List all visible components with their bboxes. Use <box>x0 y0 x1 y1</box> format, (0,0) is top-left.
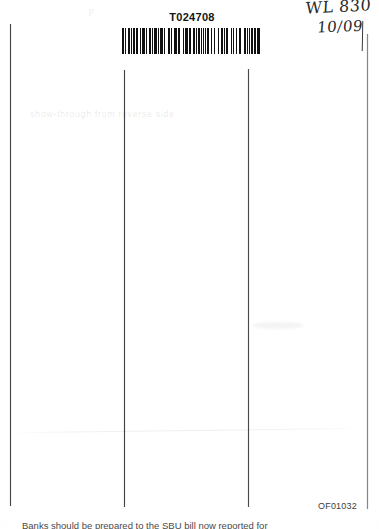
barcode-bar <box>185 28 188 55</box>
barcode-bar <box>224 28 225 55</box>
vertical-rule-left-margin <box>10 24 11 506</box>
barcode-bar <box>244 28 246 55</box>
barcode-bar <box>251 28 253 55</box>
vertical-rule-column-1 <box>124 70 125 507</box>
barcode-bar <box>158 28 159 55</box>
barcode-bar <box>201 28 202 55</box>
fold-crease-line <box>8 428 368 433</box>
barcode-bar <box>198 28 200 55</box>
barcode-bar <box>236 28 237 55</box>
paper-texture <box>0 0 379 529</box>
barcode-label: T024708 <box>121 11 263 55</box>
barcode-bar <box>125 28 126 55</box>
scanned-document-page: P T024708 WL 830 10/09 show-through from… <box>0 0 379 529</box>
corner-mark: P <box>88 6 97 17</box>
barcode-bar <box>152 28 153 55</box>
barcode-bar <box>142 28 145 55</box>
barcode-bar <box>174 28 177 55</box>
barcode-bar <box>122 28 124 55</box>
clipped-body-text: Banks should be prepared to the SBU bill… <box>22 520 352 529</box>
barcode-bar <box>231 28 232 55</box>
barcode-bar <box>196 28 197 55</box>
barcode-bar <box>203 28 204 55</box>
barcode-bar <box>171 28 172 55</box>
barcode-bar <box>233 28 234 55</box>
barcode-bar <box>193 28 195 55</box>
barcode-bar <box>168 28 170 55</box>
barcode-bar <box>249 28 250 55</box>
barcode-bar <box>205 28 206 55</box>
vertical-rule-column-2 <box>248 69 249 507</box>
barcode-bars <box>121 28 262 55</box>
vertical-rule-right-margin <box>367 34 368 509</box>
clipped-body-text-line: Banks should be prepared to the SBU bill… <box>22 520 352 529</box>
barcode-bar <box>183 28 184 55</box>
barcode-bar <box>136 28 138 55</box>
barcode-bar <box>160 28 163 55</box>
barcode-bar <box>247 28 248 55</box>
barcode-bar <box>140 28 141 55</box>
handwritten-date: 10/09 <box>298 16 379 37</box>
barcode-bar <box>214 28 215 55</box>
barcode-bar <box>211 28 212 55</box>
handwritten-annotation: WL 830 10/09 <box>300 0 379 37</box>
barcode-bar <box>207 28 209 55</box>
barcode-bar <box>218 28 219 55</box>
barcode-bar <box>257 28 260 55</box>
barcode-bar <box>133 28 135 55</box>
barcode-bar <box>178 28 180 55</box>
reverse-side-showthrough-text: show-through from reverse side <box>30 108 230 120</box>
barcode-bar <box>146 28 147 55</box>
barcode-bar <box>226 28 228 55</box>
barcode-number-text: T024708 <box>121 11 263 24</box>
pen-stroke-mark <box>362 21 364 51</box>
barcode-bar <box>128 28 130 55</box>
footer-document-stamp: OF01032 <box>318 501 357 512</box>
smudge-mark <box>252 322 304 329</box>
barcode-bar <box>189 28 191 55</box>
barcode-bar <box>154 28 157 55</box>
barcode-bar <box>239 28 241 55</box>
barcode-bar <box>149 28 151 55</box>
barcode-bar <box>221 28 223 55</box>
barcode-bar <box>254 28 256 55</box>
handwritten-reference: WL 830 <box>299 0 379 18</box>
barcode-bar <box>164 28 165 55</box>
barcode-bar <box>131 28 132 55</box>
